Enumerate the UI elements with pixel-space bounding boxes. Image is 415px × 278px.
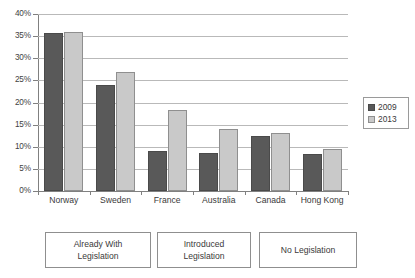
y-axis-tick-mark bbox=[33, 58, 38, 59]
y-axis-tick-label: 25% bbox=[0, 76, 31, 84]
bar-sweden-2013 bbox=[116, 72, 135, 191]
bar-france-2009 bbox=[148, 151, 167, 191]
y-axis-tick-label: 20% bbox=[0, 99, 31, 107]
y-axis-tick-mark bbox=[33, 103, 38, 104]
group-box-no-legislation: No Legislation bbox=[259, 232, 357, 268]
y-axis-tick-label: 35% bbox=[0, 32, 31, 40]
group-box-line2: Legislation bbox=[183, 251, 224, 261]
bar-hong-kong-2009 bbox=[303, 154, 322, 191]
x-axis-tick-mark bbox=[245, 191, 246, 195]
bar-australia-2013 bbox=[219, 129, 238, 191]
y-axis-tick-label: 5% bbox=[0, 165, 31, 173]
bar-sweden-2009 bbox=[96, 85, 115, 191]
y-axis-tick-label: 40% bbox=[0, 10, 31, 18]
bar-norway-2013 bbox=[64, 32, 83, 191]
y-axis-tick-mark bbox=[33, 36, 38, 37]
bar-hong-kong-2013 bbox=[323, 149, 342, 191]
x-axis-tick-mark bbox=[38, 191, 39, 195]
group-box-introduced-legislation: Introduced Legislation bbox=[157, 232, 251, 268]
bar-norway-2009 bbox=[44, 33, 63, 191]
x-axis-category-label: Hong Kong bbox=[296, 196, 348, 205]
bars-layer bbox=[39, 14, 348, 191]
y-axis-tick-mark bbox=[33, 80, 38, 81]
x-axis-tick-mark bbox=[193, 191, 194, 195]
group-box-line2: Legislation bbox=[77, 251, 118, 261]
bar-france-2013 bbox=[168, 110, 187, 191]
legend-item-2009: 2009 bbox=[368, 101, 405, 113]
group-box-line1: Already With bbox=[74, 239, 123, 249]
x-axis-tick-mark bbox=[141, 191, 142, 195]
legend-label-2013: 2013 bbox=[378, 115, 397, 123]
x-axis-tick-mark bbox=[296, 191, 297, 195]
group-box-already-with-legislation: Already With Legislation bbox=[45, 232, 151, 268]
group-box-text: No Legislation bbox=[281, 244, 335, 256]
group-box-line1: Introduced bbox=[184, 239, 225, 249]
y-axis-tick-mark bbox=[33, 169, 38, 170]
y-axis-tick-label: 10% bbox=[0, 143, 31, 151]
legend-swatch-2013-icon bbox=[368, 116, 375, 123]
legend: 2009 2013 bbox=[363, 97, 409, 129]
x-axis-category-label: Canada bbox=[245, 196, 297, 205]
x-axis-tick-mark bbox=[90, 191, 91, 195]
y-axis-tick-mark bbox=[33, 14, 38, 15]
y-axis-tick-label: 15% bbox=[0, 121, 31, 129]
x-axis-category-label: France bbox=[141, 196, 193, 205]
legend-swatch-2009-icon bbox=[368, 104, 375, 111]
y-axis-tick-label: 0% bbox=[0, 187, 31, 195]
x-axis-category-label: Australia bbox=[193, 196, 245, 205]
group-box-line1: No Legislation bbox=[281, 245, 335, 255]
legend-label-2009: 2009 bbox=[378, 103, 397, 111]
bar-canada-2009 bbox=[251, 136, 270, 191]
x-axis-category-label: Sweden bbox=[90, 196, 142, 205]
x-axis-tick-mark bbox=[348, 191, 349, 195]
y-axis-tick-label: 30% bbox=[0, 54, 31, 62]
bar-canada-2013 bbox=[271, 133, 290, 191]
x-axis-category-label: Norway bbox=[38, 196, 90, 205]
legend-item-2013: 2013 bbox=[368, 113, 405, 125]
group-box-text: Introduced Legislation bbox=[183, 238, 224, 263]
bar-chart: 0%5%10%15%20%25%30%35%40% NorwaySwedenFr… bbox=[0, 0, 415, 278]
y-axis-tick-mark bbox=[33, 125, 38, 126]
y-axis-tick-mark bbox=[33, 147, 38, 148]
group-box-text: Already With Legislation bbox=[74, 238, 123, 263]
bar-australia-2009 bbox=[199, 153, 218, 191]
